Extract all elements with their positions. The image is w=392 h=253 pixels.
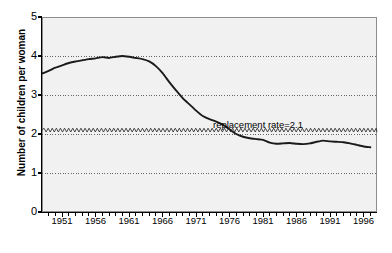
replacement-rate-annotation: replacement rate=2.1: [213, 119, 303, 130]
axis-lines: [0, 0, 392, 253]
chart-figure: Number of children per woman 012345 1951…: [0, 0, 392, 253]
